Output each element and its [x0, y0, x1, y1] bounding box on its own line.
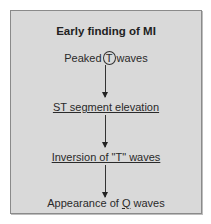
step-4-prefix: Appearance of — [47, 197, 122, 209]
arrow-down-icon — [105, 165, 106, 197]
step-1-prefix: Peaked — [64, 52, 101, 64]
arrow-down-icon — [105, 65, 106, 97]
circled-t: T — [103, 51, 116, 65]
diagram-title: Early finding of MI — [11, 25, 201, 37]
step-q-waves: Appearance of Q waves — [11, 197, 201, 209]
step-1-suffix: waves — [117, 52, 148, 64]
step-t-inversion: Inversion of "T" waves — [11, 151, 201, 163]
arrow-down-icon — [105, 115, 106, 147]
step-st-elevation: ST segment elevation — [11, 101, 201, 113]
flowchart-box: Early finding of MI PeakedTwaves ST segm… — [10, 10, 202, 214]
step-4-suffix: waves — [130, 197, 164, 209]
step-peaked-t-waves: PeakedTwaves — [11, 51, 201, 65]
